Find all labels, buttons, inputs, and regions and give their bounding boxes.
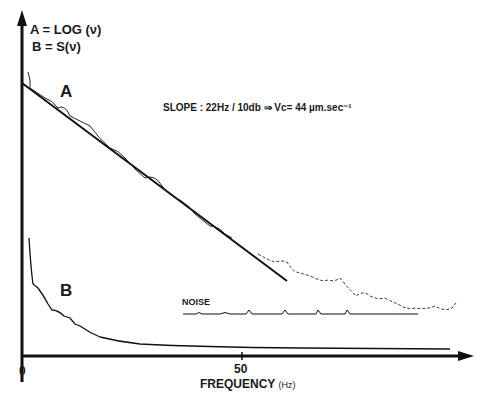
curve-a-dashed — [258, 254, 456, 310]
noise-label: NOISE — [182, 297, 210, 307]
curve-b-label: B — [60, 281, 72, 301]
y-axis-arrow-icon — [17, 10, 27, 26]
curve-b — [29, 238, 450, 349]
legend-a: A = LOG (ν) — [30, 22, 101, 37]
curve-a-label: A — [60, 82, 72, 102]
slope-annotation: SLOPE : 22Hz / 10db ⇒ Vᴄ= 44 µm.sec⁻¹ — [163, 102, 352, 113]
x-tick-label-50: 50 — [234, 362, 247, 376]
x-axis-arrow-icon — [458, 351, 474, 361]
x-axis-label: FREQUENCY (Hz) — [200, 377, 295, 391]
legend-b: B = S(ν) — [32, 39, 81, 54]
curve-a-measured — [28, 72, 232, 238]
x-tick-label-0: 0 — [19, 364, 26, 378]
x-axis-unit: (Hz) — [278, 380, 295, 390]
x-axis-title: FREQUENCY — [200, 377, 275, 391]
chart-canvas — [0, 0, 483, 395]
noise-line — [183, 310, 418, 314]
